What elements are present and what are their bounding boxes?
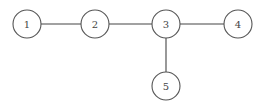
node-5-label: 5 bbox=[163, 81, 169, 92]
graph-diagram: 1 2 3 4 5 bbox=[0, 0, 266, 106]
node-1-label: 1 bbox=[24, 19, 30, 30]
node-3: 3 bbox=[152, 10, 180, 38]
node-3-label: 3 bbox=[163, 19, 169, 30]
edges bbox=[41, 24, 224, 72]
node-5: 5 bbox=[152, 72, 180, 100]
node-2-label: 2 bbox=[92, 19, 98, 30]
node-4-label: 4 bbox=[235, 19, 241, 30]
node-4: 4 bbox=[224, 10, 252, 38]
node-2: 2 bbox=[81, 10, 109, 38]
node-1: 1 bbox=[13, 10, 41, 38]
